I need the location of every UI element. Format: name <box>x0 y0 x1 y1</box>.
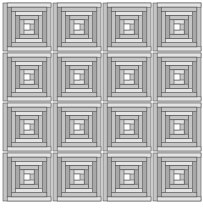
log-cabin-quilt <box>0 0 203 208</box>
quilt-block <box>3 53 51 101</box>
quilt-block <box>3 3 51 51</box>
quilt-block <box>103 53 151 101</box>
quilt-block <box>153 153 201 201</box>
quilt-block <box>153 103 201 151</box>
quilt-block <box>53 3 101 51</box>
quilt-block <box>153 3 201 51</box>
quilt-block <box>3 153 51 201</box>
quilt-block <box>103 103 151 151</box>
quilt-block <box>103 3 151 51</box>
quilt-pattern <box>0 0 203 208</box>
quilt-block <box>53 53 101 101</box>
quilt-block <box>103 153 151 201</box>
quilt-block <box>153 53 201 101</box>
quilt-block <box>53 103 101 151</box>
quilt-block <box>53 153 101 201</box>
quilt-block <box>3 103 51 151</box>
